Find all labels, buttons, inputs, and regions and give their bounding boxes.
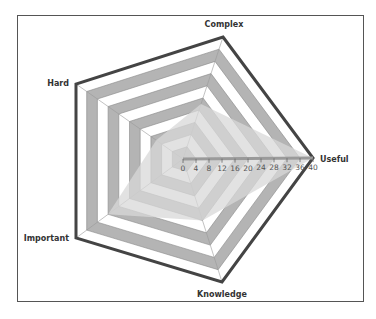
radar-chart: 0481216202428323640 ComplexUsefulKnowled… <box>0 0 376 319</box>
axis-label-important: Important <box>24 234 69 243</box>
axis-label-knowledge: Knowledge <box>197 290 247 299</box>
axis-label-useful: Useful <box>320 155 349 164</box>
tick-label: 40 <box>308 163 318 172</box>
tick-label: 20 <box>243 164 253 173</box>
axis-label-hard: Hard <box>47 79 69 88</box>
tick-label: 16 <box>230 164 240 173</box>
tick-label: 4 <box>194 164 199 173</box>
axis-label-complex: Complex <box>205 20 245 29</box>
tick-label: 32 <box>282 163 292 172</box>
tick-label: 24 <box>256 163 266 172</box>
tick-label: 8 <box>207 164 212 173</box>
tick-label: 0 <box>181 164 186 173</box>
tick-label: 28 <box>269 163 279 172</box>
tick-label: 12 <box>217 164 227 173</box>
tick-label: 36 <box>295 163 305 172</box>
